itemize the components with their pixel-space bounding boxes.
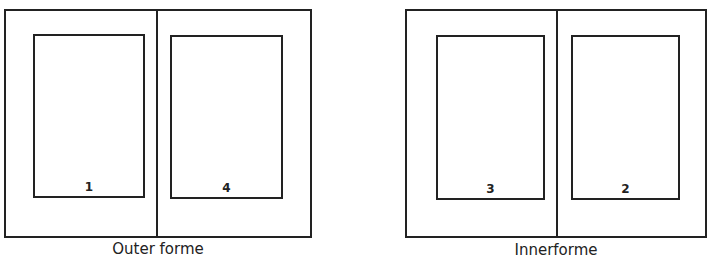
outer-forme-fold-line [156,9,158,238]
page-number: 2 [573,182,678,196]
outer-forme-page-4: 4 [170,35,283,199]
page-number: 1 [35,180,143,194]
page-number: 4 [172,181,281,195]
outer-forme-caption: Outer forme [4,240,312,258]
inner-forme-caption: Innerforme [405,241,707,259]
inner-forme-page-3: 3 [436,35,545,200]
inner-forme-page-2: 2 [571,35,680,200]
page-number: 3 [438,182,543,196]
inner-forme-fold-line [556,9,558,238]
outer-forme-page-1: 1 [33,34,145,198]
